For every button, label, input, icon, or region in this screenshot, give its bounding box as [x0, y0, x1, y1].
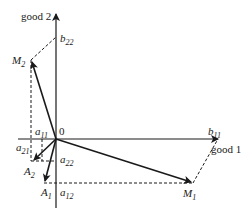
vector-m1 — [56, 139, 191, 182]
x-axis-label: good 1 — [211, 143, 241, 155]
label-b11: b11 — [208, 125, 221, 140]
vector-diagram: good 2 good 1 0 b22 M2 b11 M1 a11 a21 a2… — [0, 0, 252, 221]
label-a2: A2 — [23, 165, 35, 180]
label-b22: b22 — [60, 32, 74, 47]
label-a11: a11 — [35, 125, 48, 140]
label-a12: a12 — [60, 186, 74, 201]
origin-label: 0 — [59, 125, 65, 137]
m2-to-b22-guide — [31, 37, 56, 60]
label-a1: A1 — [40, 186, 52, 201]
label-a22: a22 — [60, 153, 74, 168]
label-m1: M1 — [182, 187, 196, 202]
label-m2: M2 — [11, 54, 25, 69]
label-a21: a21 — [16, 141, 30, 156]
y-axis-label: good 2 — [21, 10, 51, 22]
